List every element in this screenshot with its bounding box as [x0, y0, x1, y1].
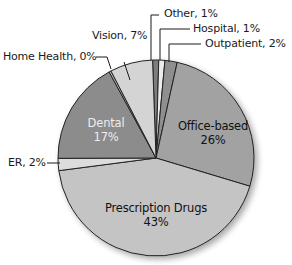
label-office-pct: 26%: [168, 133, 258, 147]
leader-outpatient: [169, 44, 201, 62]
label-other: Other, 1%: [164, 7, 218, 20]
label-dental: Dental 17%: [76, 116, 136, 144]
label-prescription-drugs: Prescription Drugs 43%: [96, 201, 216, 229]
label-office-based: Office-based 26%: [168, 119, 258, 147]
label-home-health: Home Health, 0%: [3, 50, 97, 63]
label-rx-name: Prescription Drugs: [96, 201, 216, 215]
label-dental-name: Dental: [76, 116, 136, 130]
leader-other: [151, 15, 159, 60]
label-hospital: Hospital, 1%: [193, 22, 260, 35]
label-outpatient: Outpatient, 2%: [205, 37, 286, 50]
label-vision: Vision, 7%: [92, 29, 147, 42]
label-dental-pct: 17%: [76, 130, 136, 144]
label-office-name: Office-based: [168, 119, 258, 133]
label-rx-pct: 43%: [96, 215, 216, 229]
leader-home-health: [96, 57, 111, 69]
label-er: ER, 2%: [8, 156, 46, 169]
